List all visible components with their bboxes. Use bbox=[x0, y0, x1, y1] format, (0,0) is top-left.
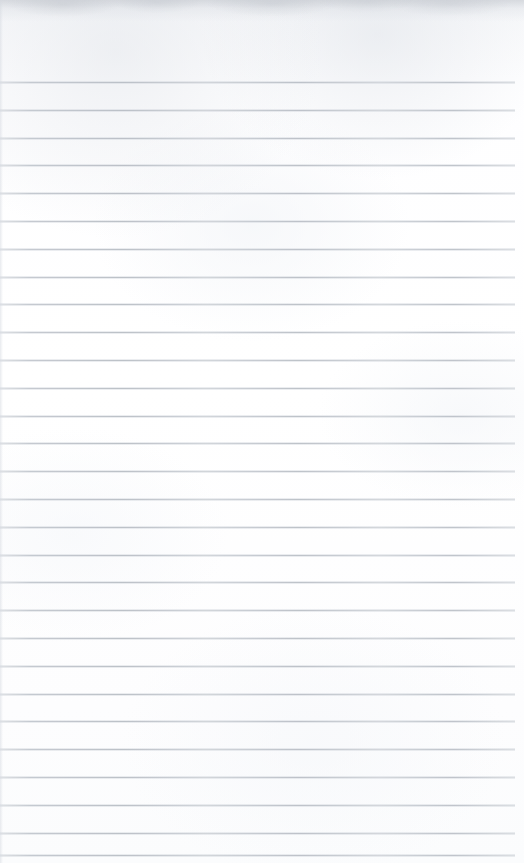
ruled-line-ink-variation bbox=[0, 555, 515, 556]
ruled-line-ink-variation bbox=[0, 527, 515, 528]
ruled-line bbox=[0, 193, 515, 194]
ruled-line bbox=[0, 749, 515, 750]
ruled-line bbox=[0, 304, 515, 305]
ruled-line-ink-variation bbox=[0, 138, 515, 139]
ruled-line bbox=[0, 471, 515, 472]
ruled-line bbox=[0, 110, 515, 111]
ruled-line-ink-variation bbox=[0, 499, 515, 500]
ruled-line bbox=[0, 416, 515, 417]
ruled-line bbox=[0, 360, 515, 361]
ruled-line-ink-variation bbox=[0, 694, 515, 695]
ruled-line bbox=[0, 277, 515, 278]
ruled-line-ink-variation bbox=[0, 249, 515, 250]
ruled-line bbox=[0, 82, 515, 83]
ruled-line-ink-variation bbox=[0, 833, 515, 834]
ruled-line bbox=[0, 249, 515, 250]
ruled-line-ink-variation bbox=[0, 855, 515, 856]
ruled-line bbox=[0, 721, 515, 722]
ruled-line-ink-variation bbox=[0, 416, 515, 417]
ruled-line-ink-variation bbox=[0, 638, 515, 639]
ruled-line-ink-variation bbox=[0, 304, 515, 305]
ruled-line bbox=[0, 666, 515, 667]
ruled-line-ink-variation bbox=[0, 82, 515, 83]
ruled-line bbox=[0, 527, 515, 528]
ruled-line bbox=[0, 833, 515, 834]
ruled-line-ink-variation bbox=[0, 805, 515, 806]
ruled-line bbox=[0, 138, 515, 139]
ruled-line bbox=[0, 555, 515, 556]
ruled-line bbox=[0, 388, 515, 389]
ruled-line-ink-variation bbox=[0, 749, 515, 750]
ruled-line bbox=[0, 582, 515, 583]
ruled-line-ink-variation bbox=[0, 388, 515, 389]
ruled-line-ink-variation bbox=[0, 360, 515, 361]
ruled-line bbox=[0, 165, 515, 166]
ruled-line-ink-variation bbox=[0, 193, 515, 194]
ruled-line-ink-variation bbox=[0, 610, 515, 611]
ruled-line-ink-variation bbox=[0, 277, 515, 278]
ruled-line bbox=[0, 694, 515, 695]
ruled-line bbox=[0, 805, 515, 806]
ruled-line bbox=[0, 638, 515, 639]
ruled-line-ink-variation bbox=[0, 332, 515, 333]
ruled-line bbox=[0, 221, 515, 222]
ruled-line-ink-variation bbox=[0, 721, 515, 722]
ruled-line-ink-variation bbox=[0, 471, 515, 472]
ruled-line bbox=[0, 332, 515, 333]
ruled-line-ink-variation bbox=[0, 110, 515, 111]
ruled-line bbox=[0, 443, 515, 444]
scanned-notebook-page bbox=[0, 0, 524, 863]
ruled-line bbox=[0, 610, 515, 611]
ruled-line bbox=[0, 499, 515, 500]
ruled-line-ink-variation bbox=[0, 221, 515, 222]
ruled-line-ink-variation bbox=[0, 443, 515, 444]
ruled-line-ink-variation bbox=[0, 582, 515, 583]
ruled-line-ink-variation bbox=[0, 165, 515, 166]
ruled-line-ink-variation bbox=[0, 666, 515, 667]
ruled-line bbox=[0, 777, 515, 778]
ruled-line-ink-variation bbox=[0, 777, 515, 778]
ruled-line bbox=[0, 855, 515, 856]
ruled-lines-group bbox=[0, 0, 524, 863]
